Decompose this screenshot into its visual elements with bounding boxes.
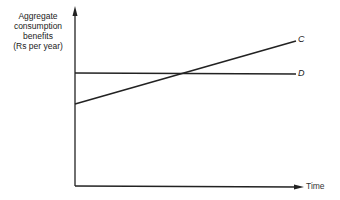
y-axis-label-line: (Rs per year) bbox=[2, 41, 74, 51]
series-label-d: D bbox=[298, 68, 305, 78]
y-axis-label: Aggregate consumption benefits (Rs per y… bbox=[2, 11, 74, 51]
x-axis-arrow-icon bbox=[294, 185, 304, 190]
chart: Aggregate consumption benefits (Rs per y… bbox=[0, 0, 340, 200]
x-axis-label: Time bbox=[306, 181, 325, 191]
y-axis-label-line: benefits bbox=[2, 31, 74, 41]
y-axis-label-line: consumption bbox=[2, 21, 74, 31]
x-axis bbox=[75, 186, 296, 187]
series-label-c: C bbox=[298, 34, 305, 44]
y-axis-label-line: Aggregate bbox=[2, 11, 74, 21]
